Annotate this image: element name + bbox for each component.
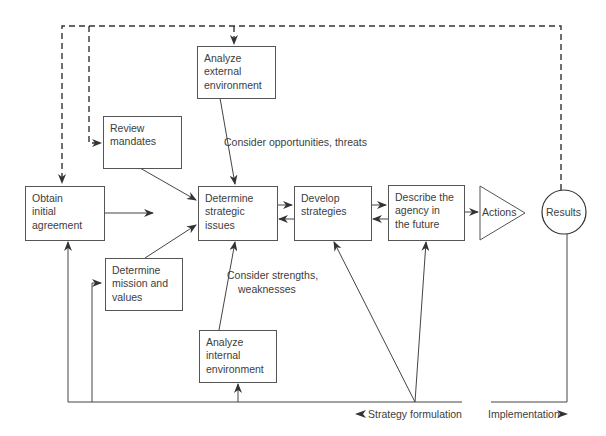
node-text-line: Determine [112, 264, 176, 277]
node-text-line: Analyze [206, 336, 270, 349]
node-text-line: Describe the [395, 191, 458, 204]
node-describe-agency-future: Describe the agency in the future [388, 185, 465, 241]
node-text-line: values [112, 291, 176, 304]
node-text-line: agency in [395, 204, 458, 217]
node-text-line: initial [32, 205, 98, 218]
annotation-weaknesses: weaknesses [238, 283, 296, 296]
node-results-label: Results [546, 206, 581, 219]
node-obtain-initial-agreement: Obtain initial agreement [25, 186, 105, 241]
node-text-line: the future [395, 218, 458, 231]
node-text-line: external [204, 65, 269, 78]
node-text-line: agreement [32, 219, 98, 232]
phase-label-implementation: Implementation [488, 408, 560, 421]
node-text-line: mission and [112, 277, 176, 290]
node-actions-label: Actions [482, 206, 516, 219]
node-text-line: Obtain [32, 192, 98, 205]
node-text-line: environment [206, 363, 270, 376]
node-determine-mission-values: Determine mission and values [105, 258, 183, 311]
strategic-planning-diagram: Obtain initial agreement Review mandates… [0, 0, 606, 436]
node-analyze-internal-environment: Analyze internal environment [199, 330, 277, 383]
phase-label-strategy-formulation: Strategy formulation [368, 408, 462, 421]
node-review-mandates: Review mandates [103, 116, 182, 169]
node-text-line: Analyze [204, 52, 269, 65]
node-text-line: Develop [301, 192, 365, 205]
annotation-strengths: Consider strengths, [227, 269, 318, 282]
node-text-line: Determine [205, 192, 271, 205]
node-text-line: strategies [301, 205, 365, 218]
node-text-line: environment [204, 79, 269, 92]
node-analyze-external-environment: Analyze external environment [197, 46, 276, 99]
node-text-line: Review [110, 122, 175, 135]
node-text-line: issues [205, 219, 271, 232]
node-text-line: strategic [205, 205, 271, 218]
node-text-line: internal [206, 349, 270, 362]
node-text-line: mandates [110, 135, 175, 148]
strategy-formulation-arrow-icon [355, 410, 366, 418]
node-determine-strategic-issues: Determine strategic issues [198, 186, 278, 241]
annotation-opportunities-threats: Consider opportunities, threats [224, 136, 367, 149]
node-develop-strategies: Develop strategies [294, 186, 372, 241]
